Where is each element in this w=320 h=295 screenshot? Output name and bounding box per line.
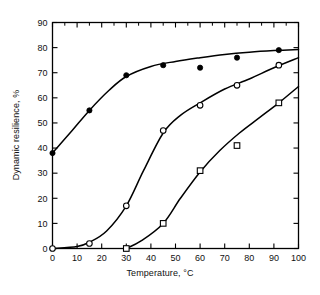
x-tick-label-20: 20 [97,253,107,263]
x-tick-label-90: 90 [269,253,279,263]
x-tick-label-40: 40 [146,253,156,263]
data-point-filled-circle-series [234,55,239,60]
data-point-open-circle-series [124,203,130,209]
y-tick-label-40: 40 [37,143,47,153]
data-point-open-square-series [124,246,130,252]
x-axis-title: Temperature, °C [0,268,320,278]
x-tick-label-70: 70 [220,253,230,263]
x-tick-label-80: 80 [244,253,254,263]
y-tick-label-0: 0 [42,244,47,254]
data-point-filled-circle-series [50,150,55,155]
y-axis-title: Dynamic resilience, % [11,55,21,215]
plot-frame [53,23,299,249]
x-tick-label-50: 50 [170,253,180,263]
data-point-open-circle-series [87,241,93,247]
y-tick-label-70: 70 [37,68,47,78]
y-tick-label-50: 50 [37,118,47,128]
data-point-open-square-series [234,143,240,149]
y-tick-label-80: 80 [37,43,47,53]
y-tick-label-20: 20 [37,194,47,204]
data-point-open-square-series [276,100,282,106]
data-point-open-circle-series [160,128,166,134]
x-tick-label-60: 60 [195,253,205,263]
x-tick-label-100: 100 [291,253,306,263]
x-tick-label-30: 30 [121,253,131,263]
curve-open-square-series [126,87,298,249]
data-point-open-circle-series [276,62,282,68]
y-tick-label-90: 90 [37,18,47,28]
data-point-open-square-series [160,221,166,227]
data-point-filled-circle-series [276,48,281,53]
data-point-filled-circle-series [161,63,166,68]
y-tick-label-30: 30 [37,168,47,178]
data-point-filled-circle-series [198,65,203,70]
data-point-open-circle-series [50,246,56,252]
data-point-open-circle-series [197,103,203,109]
y-tick-label-10: 10 [37,219,47,229]
x-tick-label-0: 0 [50,253,55,263]
data-point-open-circle-series [234,82,240,88]
y-tick-label-60: 60 [37,93,47,103]
data-point-open-square-series [197,168,203,174]
data-point-filled-circle-series [124,73,129,78]
curve-filled-circle-series [53,50,299,153]
resilience-vs-temperature-plot: 0102030405060708090100010203040506070809… [0,0,320,295]
data-point-filled-circle-series [87,108,92,113]
curve-open-circle-series [53,58,299,249]
chart-container: 0102030405060708090100010203040506070809… [0,0,320,295]
x-tick-label-10: 10 [72,253,82,263]
